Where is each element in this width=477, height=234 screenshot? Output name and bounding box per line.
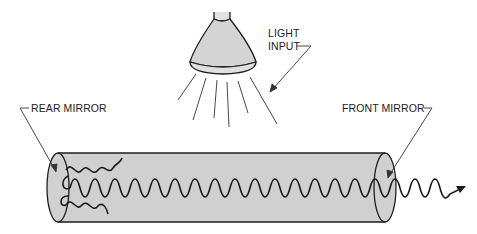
front-mirror-label: FRONT MIRROR [342, 102, 425, 114]
rear-mirror-label: REAR MIRROR [31, 102, 107, 114]
light-input-label-line1: LIGHT [268, 27, 299, 39]
light-rays [178, 74, 277, 127]
rear-mirror-end [47, 153, 69, 222]
lamp-icon [190, 12, 256, 74]
light-input-arrow [270, 46, 311, 92]
front-mirror-end [374, 153, 396, 222]
laser-diagram [0, 0, 477, 234]
front-mirror-leader [387, 108, 432, 178]
light-input-label-line2: INPUT [268, 40, 300, 52]
